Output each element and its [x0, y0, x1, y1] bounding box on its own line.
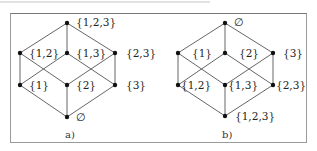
node-dot — [176, 83, 180, 87]
node-dot — [18, 83, 22, 87]
node-dot — [223, 83, 227, 87]
hasse-diagrams — [0, 0, 317, 151]
node-label: ∅ — [234, 16, 244, 28]
node-label: ∅ — [76, 111, 86, 123]
node-label: {1,2,3} — [235, 110, 275, 122]
node-label: {3} — [283, 47, 303, 59]
node-dot — [223, 114, 227, 118]
node-label: {2,3} — [276, 79, 306, 91]
node-dot — [65, 83, 69, 87]
node-label: {2} — [239, 47, 259, 59]
node-label: {2,3} — [126, 47, 156, 59]
node-label: {1,2,3} — [76, 16, 116, 28]
node-dot — [223, 51, 227, 55]
node-dot — [223, 21, 227, 25]
node-dot — [18, 51, 22, 55]
node-label: {2} — [76, 79, 96, 91]
diagram-caption: b) — [222, 129, 232, 140]
node-label: {3} — [126, 79, 146, 91]
node-label: {1,3} — [76, 47, 106, 59]
hasse-diagram-a — [18, 21, 117, 119]
node-dot — [65, 51, 69, 55]
node-dot — [65, 115, 69, 119]
node-dot — [271, 83, 275, 87]
node-dot — [271, 51, 275, 55]
node-dot — [65, 21, 69, 25]
diagram-caption: a) — [65, 129, 75, 140]
node-dot — [113, 83, 117, 87]
hasse-diagram-b — [176, 21, 275, 118]
node-label: {1,3} — [228, 79, 258, 91]
node-label: {1,2} — [181, 79, 211, 91]
node-label: {1,2} — [29, 47, 59, 59]
figure: {1,2,3}{1,2}{1,3}{2,3}{1}{2}{3}∅a)∅{1}{2… — [0, 0, 317, 151]
node-dot — [113, 51, 117, 55]
node-dot — [176, 51, 180, 55]
node-label: {1} — [29, 79, 49, 91]
node-label: {1} — [192, 47, 212, 59]
